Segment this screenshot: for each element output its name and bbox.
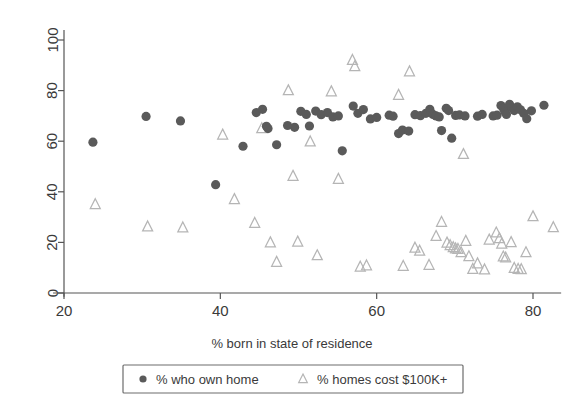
data-point-circle <box>290 123 299 132</box>
x-tick-label: 60 <box>368 302 385 319</box>
data-point-circle <box>338 146 347 155</box>
x-tick-label: 80 <box>525 302 542 319</box>
data-point-circle <box>539 101 548 110</box>
data-point-circle <box>238 142 247 151</box>
data-point-circle <box>437 126 446 135</box>
data-point-circle <box>302 110 311 119</box>
legend-label-own-home: % who own home <box>156 372 259 387</box>
chart-canvas: 020406080100 20406080 % born in state of… <box>0 0 584 408</box>
legend-marker-circle-icon <box>139 375 146 382</box>
data-point-circle <box>305 121 314 130</box>
data-point-circle <box>334 111 343 120</box>
x-tick-label: 40 <box>212 302 229 319</box>
data-point-circle <box>460 111 469 120</box>
data-point-circle <box>388 112 397 121</box>
data-point-circle <box>88 138 97 147</box>
data-point-circle <box>404 126 413 135</box>
data-point-circle <box>447 134 456 143</box>
x-axis-title: % born in state of residence <box>211 336 372 351</box>
data-point-circle <box>522 114 531 123</box>
chart-legend: % who own home% homes cost $100K+ <box>123 365 463 393</box>
data-point-circle <box>263 124 272 133</box>
data-point-circle <box>527 106 536 115</box>
y-tick-label: 80 <box>44 82 61 99</box>
legend-label-homes-cost: % homes cost $100K+ <box>317 372 447 387</box>
data-point-circle <box>272 140 281 149</box>
data-point-circle <box>435 112 444 121</box>
data-point-circle <box>478 110 487 119</box>
data-point-circle <box>258 105 267 114</box>
y-tick-label: 20 <box>44 234 61 251</box>
data-point-circle <box>372 113 381 122</box>
data-point-circle <box>359 105 368 114</box>
scatter-plot-figure: 020406080100 20406080 % born in state of… <box>0 0 584 408</box>
data-point-circle <box>176 116 185 125</box>
y-tick-label: 40 <box>44 183 61 200</box>
y-tick-label: 60 <box>44 133 61 150</box>
x-tick-label: 20 <box>56 302 73 319</box>
data-point-circle <box>211 180 220 189</box>
data-point-circle <box>141 112 150 121</box>
y-tick-label: 100 <box>44 27 61 52</box>
